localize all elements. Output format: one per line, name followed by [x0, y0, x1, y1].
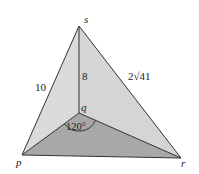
tetrahedron-diagram: s q p r 10 8 2√41 120°: [0, 0, 199, 174]
vertex-label-q: q: [81, 101, 87, 113]
edge-label-qs: 8: [82, 70, 88, 82]
vertex-label-s: s: [84, 13, 88, 25]
vertex-label-p: p: [15, 156, 22, 168]
vertex-label-r: r: [181, 157, 186, 169]
angle-label: 120°: [66, 121, 86, 132]
edge-label-ps: 10: [35, 81, 47, 93]
edge-label-rs: 2√41: [128, 70, 151, 82]
